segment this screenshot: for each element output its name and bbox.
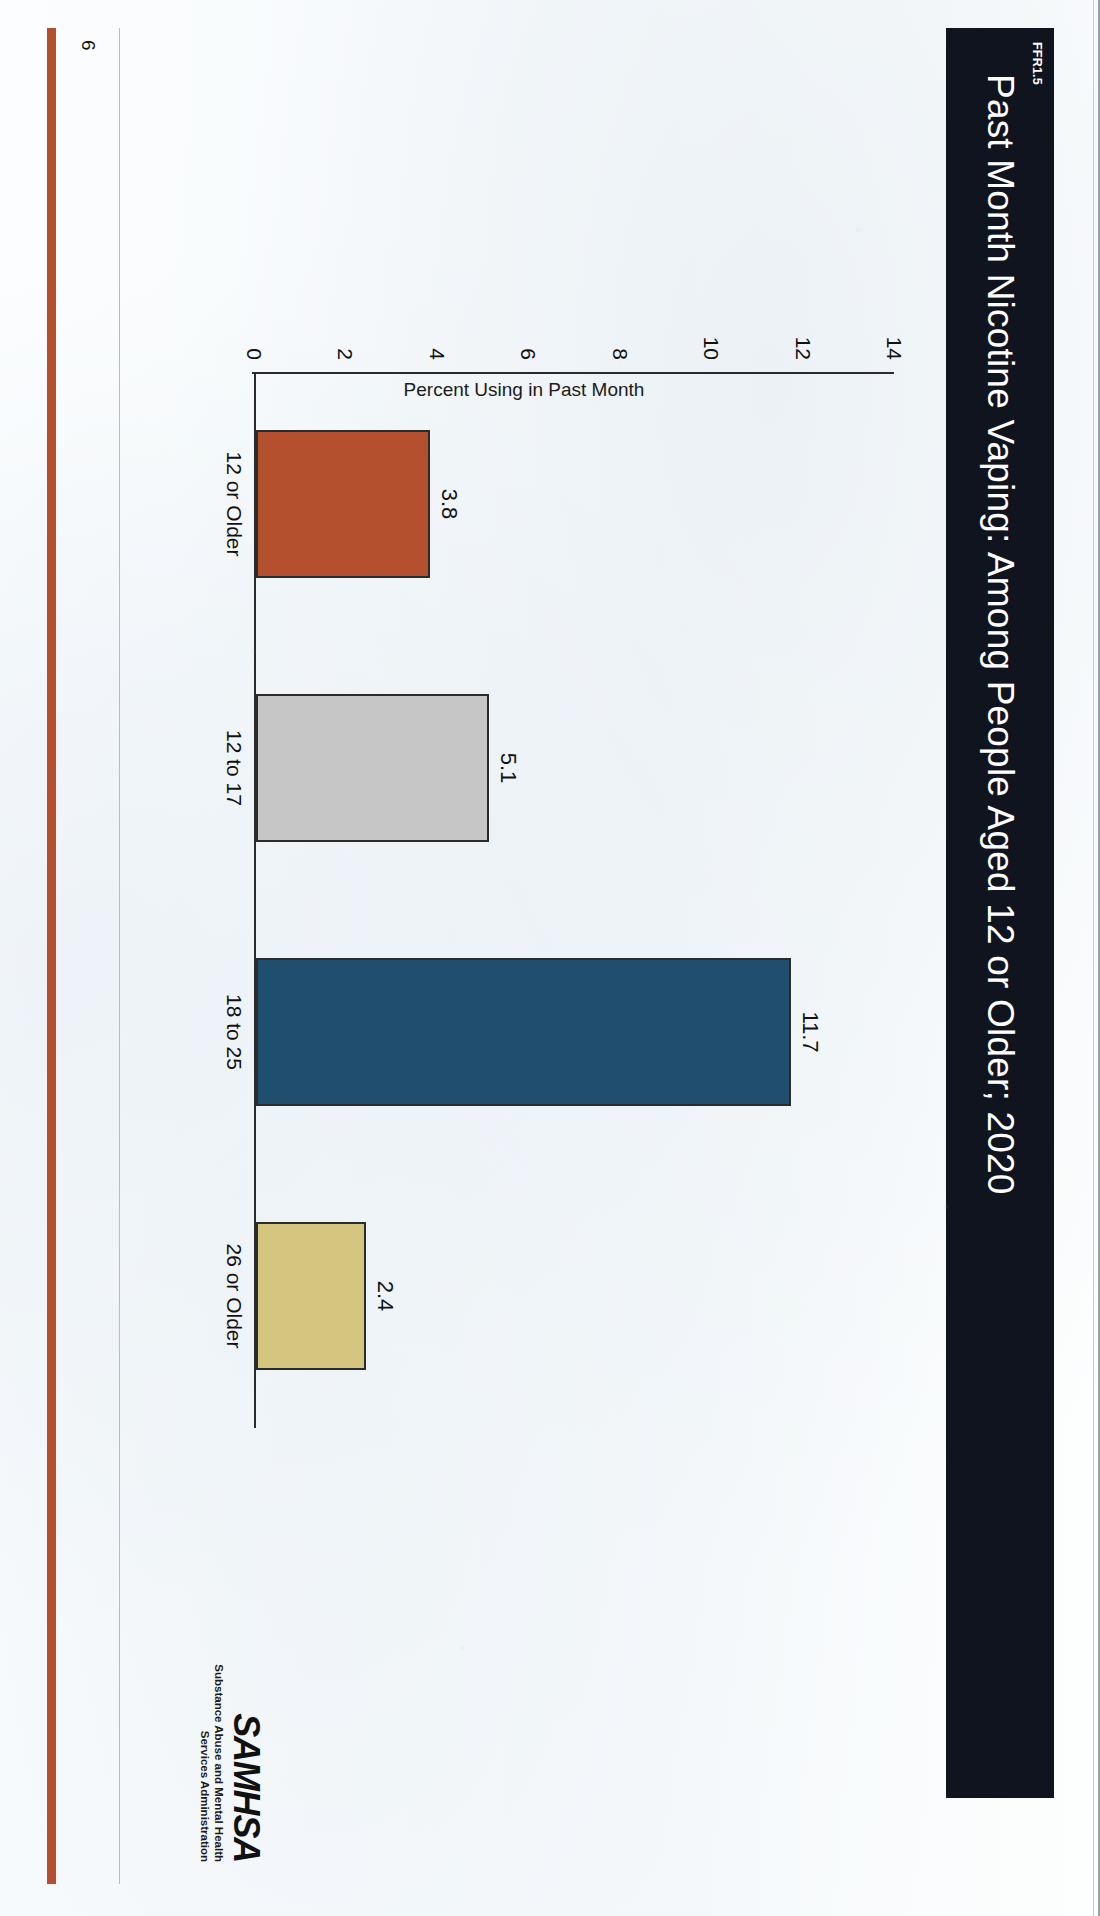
y-tick-label: 14 (882, 337, 906, 360)
bar-group: 3.8 (256, 430, 430, 578)
scan-edge-mid (1093, 0, 1094, 1916)
y-tick-label: 6 (516, 348, 540, 360)
samhsa-tagline-line1: Substance Abuse and Mental Health (211, 1612, 225, 1862)
category-label: 18 to 25 (222, 994, 246, 1070)
page-number: 6 (77, 40, 99, 51)
category-label: 12 or Older (222, 451, 246, 556)
samhsa-tagline: Substance Abuse and Mental Health Servic… (198, 1612, 225, 1862)
bar-group: 11.7 (256, 958, 791, 1106)
y-axis-line (252, 372, 894, 374)
y-tick-label: 0 (242, 348, 266, 360)
bar-value-label: 2.4 (372, 1281, 398, 1312)
slide-title: Past Month Nicotine Vaping: Among People… (979, 74, 1021, 1195)
bar-chart: Percent Using in Past Month 02468101214 … (154, 328, 894, 1428)
samhsa-tagline-line2: Services Administration (198, 1612, 212, 1862)
samhsa-wordmark: SAMHSA (228, 1612, 264, 1862)
bar-value-label: 3.8 (436, 489, 462, 520)
plot-area: 3.812 or Older5.112 to 1711.718 to 252.4… (254, 372, 894, 1428)
category-label: 12 to 17 (222, 730, 246, 806)
bar: 5.1 (256, 694, 489, 842)
bar: 11.7 (256, 958, 791, 1106)
presentation-slide: FFR1.5 Past Month Nicotine Vaping: Among… (36, 28, 1064, 1884)
y-tick-label: 8 (608, 348, 632, 360)
bar-group: 5.1 (256, 694, 489, 842)
scanned-page: FFR1.5 Past Month Nicotine Vaping: Among… (0, 0, 1100, 1916)
bar-value-label: 5.1 (495, 753, 521, 784)
bar: 3.8 (256, 430, 430, 578)
samhsa-logo: SAMHSA Substance Abuse and Mental Health… (198, 1612, 264, 1862)
accent-rule (47, 28, 56, 1884)
slide-title-banner: FFR1.5 Past Month Nicotine Vaping: Among… (946, 28, 1054, 1798)
y-tick-label: 10 (699, 337, 723, 360)
y-tick-label: 2 (333, 348, 357, 360)
bar-group: 2.4 (256, 1222, 366, 1370)
y-tick-label: 4 (425, 348, 449, 360)
bar-value-label: 11.7 (797, 1011, 823, 1052)
footer-divider (119, 28, 120, 1884)
y-axis-tick-labels: 02468101214 (254, 322, 894, 366)
bar: 2.4 (256, 1222, 366, 1370)
slide-code-label: FFR1.5 (1030, 42, 1044, 85)
y-tick-label: 12 (791, 337, 815, 360)
category-label: 26 or Older (222, 1243, 246, 1348)
